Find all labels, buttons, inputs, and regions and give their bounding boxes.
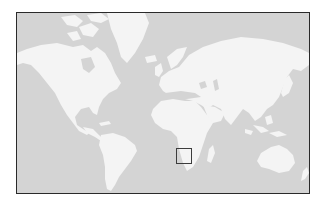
marker-label: Highlighted region: southern Africa (177, 149, 178, 150)
location-marker-square: Highlighted region: southern Africa (176, 148, 192, 164)
world-map: Highlighted region: southern Africa (16, 12, 310, 194)
world-map-graphic (17, 13, 309, 193)
